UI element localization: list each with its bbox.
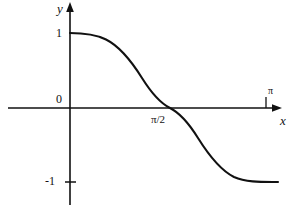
cosine-plot-figure: y x 1 0 -1 π/2 π — [0, 0, 296, 208]
y-axis-label: y — [57, 2, 63, 15]
origin-label: 0 — [56, 93, 62, 105]
x-tick-label-pi: π — [268, 86, 273, 96]
x-axis-label: x — [280, 114, 286, 127]
y-tick-label-one: 1 — [56, 27, 62, 39]
y-tick-label-negative-one: -1 — [45, 175, 55, 187]
x-tick-label-pi-half: π/2 — [151, 114, 165, 125]
y-axis-arrowhead — [66, 2, 74, 12]
x-axis-arrowhead — [272, 104, 282, 112]
